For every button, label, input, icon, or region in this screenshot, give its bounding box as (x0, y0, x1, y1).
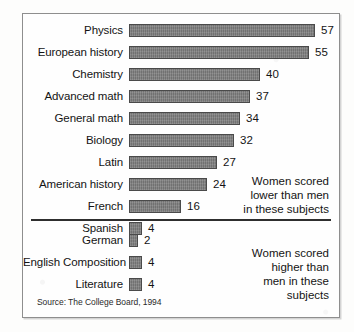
bar-row: Latin27 (23, 151, 339, 173)
bar-category-label: Chemistry (23, 68, 129, 81)
bar (129, 24, 315, 37)
bar-value-label: 37 (250, 90, 269, 103)
bar-category-label: Literature (23, 278, 129, 291)
annotation-line: Women scored (217, 246, 329, 260)
bar-row: European history55 (23, 41, 339, 63)
bar-value-label: 32 (234, 134, 253, 147)
annotation-line: higher than (217, 260, 329, 274)
bar (129, 178, 207, 191)
bar-row: General math34 (23, 107, 339, 129)
bar-category-label: German (23, 234, 129, 247)
bar-value-label: 16 (181, 200, 200, 213)
bar (129, 278, 142, 291)
annotation-line: men in these (217, 274, 329, 288)
bar (129, 156, 217, 169)
bar (129, 134, 234, 147)
bar-row: Advanced math37 (23, 85, 339, 107)
annotation-women-higher: Women scoredhigher thanmen in thesesubje… (217, 246, 329, 302)
bar-row: Physics57 (23, 19, 339, 41)
bar (129, 90, 250, 103)
bar-category-label: European history (23, 46, 129, 59)
group-divider (31, 219, 331, 221)
annotation-line: lower than men (217, 188, 329, 202)
annotation-line: subjects (217, 288, 329, 302)
bar-category-label: French (23, 200, 129, 213)
bar-category-label: American history (23, 178, 129, 191)
bar (129, 256, 142, 269)
bar-value-label: 4 (142, 278, 154, 291)
bar-value-label: 57 (315, 24, 334, 37)
annotation-women-lower: Women scoredlower than menin these subje… (217, 174, 329, 216)
bar (129, 68, 260, 81)
bar-value-label: 40 (260, 68, 279, 81)
bar (129, 200, 181, 213)
bar-category-label: English Composition (23, 256, 129, 269)
bar-category-label: Advanced math (23, 90, 129, 103)
bar-value-label: 27 (217, 156, 236, 169)
chart-frame: Physics57European history55Chemistry40Ad… (22, 13, 340, 318)
bar-value-label: 55 (309, 46, 328, 59)
bar-row: Biology32 (23, 129, 339, 151)
bar-category-label: General math (23, 112, 129, 125)
source-note: Source: The College Board, 1994 (37, 297, 161, 307)
bar-value-label: 34 (240, 112, 259, 125)
bar-category-label: Latin (23, 156, 129, 169)
chart-body: Physics57European history55Chemistry40Ad… (23, 14, 339, 317)
bar-row: Chemistry40 (23, 63, 339, 85)
annotation-line: in these subjects (217, 202, 329, 216)
annotation-line: Women scored (217, 174, 329, 188)
bar-value-label: 2 (138, 234, 150, 247)
bar-category-label: Physics (23, 24, 129, 37)
bar-value-label: 4 (142, 256, 154, 269)
bar (129, 46, 309, 59)
bar (129, 112, 240, 125)
bar-category-label: Biology (23, 134, 129, 147)
bar (129, 234, 138, 247)
